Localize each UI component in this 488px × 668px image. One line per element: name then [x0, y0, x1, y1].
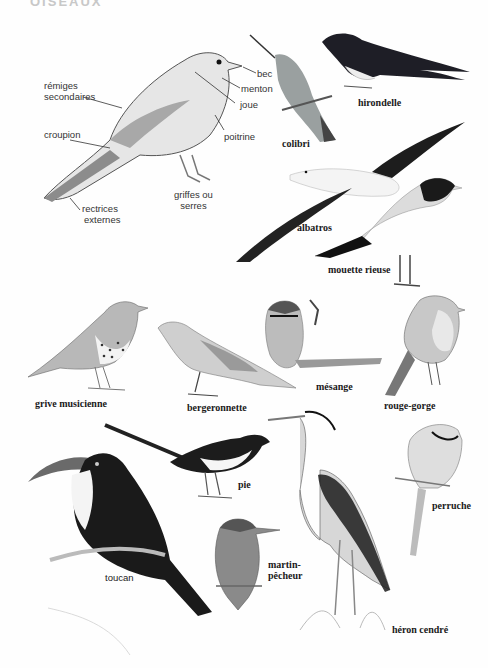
- species-label-mesange: mésange: [316, 381, 353, 392]
- label-remiges-line2: secondaires: [44, 91, 95, 102]
- mesange-illustration: [266, 300, 382, 368]
- label-poitrine: poitrine: [224, 131, 255, 142]
- heron-illustration: [268, 412, 390, 630]
- label-rectrices-line2: externes: [82, 214, 120, 225]
- decorative-stroke: [48, 608, 130, 655]
- label-croupion: croupion: [44, 129, 80, 140]
- toucan-illustration: [28, 453, 212, 616]
- label-bec: bec: [257, 68, 272, 79]
- label-remiges: rémiges secondaires: [44, 80, 95, 102]
- species-label-martin-line2: pêcheur: [268, 570, 302, 581]
- label-griffes-line1: griffes ou: [174, 189, 213, 200]
- perruche-illustration: [395, 425, 462, 556]
- rouge-gorge-illustration: [385, 296, 465, 396]
- species-label-toucan: toucan: [105, 572, 134, 583]
- label-rectrices: rectrices externes: [82, 203, 120, 225]
- species-label-rouge-gorge: rouge-gorge: [384, 400, 435, 411]
- bird-plate-page: OISEAUX: [0, 0, 488, 668]
- species-label-perruche: perruche: [432, 500, 471, 511]
- species-label-mouette: mouette rieuse: [328, 264, 390, 275]
- species-label-colibri: colibri: [282, 138, 310, 149]
- label-griffes: griffes ou serres: [174, 189, 213, 211]
- species-label-hirondelle: hirondelle: [358, 97, 401, 108]
- grive-illustration: [28, 302, 148, 390]
- species-label-bergeronnette: bergeronnette: [187, 402, 247, 413]
- species-label-heron: héron cendré: [392, 624, 448, 635]
- species-label-martin-line1: martin-: [268, 559, 302, 570]
- label-menton: menton: [241, 83, 273, 94]
- species-label-pie: pie: [238, 479, 251, 490]
- hirondelle-illustration: [322, 33, 470, 88]
- label-griffes-line2: serres: [174, 200, 213, 211]
- species-label-martin-pecheur: martin- pêcheur: [268, 559, 302, 581]
- label-joue: joue: [240, 99, 258, 110]
- label-rectrices-line1: rectrices: [82, 203, 120, 214]
- species-label-grive: grive musicienne: [35, 398, 107, 409]
- label-remiges-line1: rémiges: [44, 80, 95, 91]
- species-label-albatros: albatros: [297, 222, 332, 233]
